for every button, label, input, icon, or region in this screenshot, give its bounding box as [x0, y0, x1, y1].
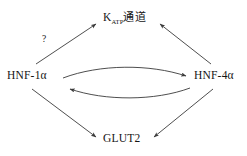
edge-hnf4a-to-katp [160, 24, 211, 64]
regulatory-network-diagram: KATP通道 HNF-1α HNF-4α GLUT2 ? [0, 0, 247, 156]
node-katp-suffix: 通道 [123, 11, 145, 24]
edge-hnf4a-to-glut2 [154, 89, 213, 137]
node-glut2: GLUT2 [103, 133, 140, 145]
node-hnf-4-alpha: HNF-4α [194, 70, 234, 82]
node-katp-subscript: ATP [112, 18, 124, 25]
node-katp-prefix: K [103, 11, 112, 23]
node-katp-channel: KATP通道 [103, 12, 146, 26]
node-hnf-1-alpha: HNF-1α [7, 70, 47, 82]
edge-hnf4a-to-hnf1a [70, 88, 190, 98]
uncertain-link-annotation: ? [42, 35, 46, 45]
edge-hnf1a-to-glut2 [32, 89, 96, 137]
edge-hnf1a-to-hnf4a [63, 67, 186, 78]
